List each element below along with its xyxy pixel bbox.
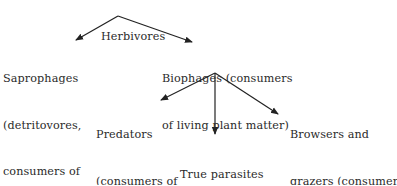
node-saprophages-line: consumers of — [3, 164, 82, 180]
node-browsers-grazers-line: grazers (consumers — [290, 174, 397, 186]
node-saprophages: Saprophages (detritovores, consumers of … — [3, 40, 82, 185]
node-herbivores: Herbivores — [101, 0, 165, 60]
node-predators-line: Predators — [96, 127, 181, 143]
node-saprophages-line: Saprophages — [3, 71, 82, 87]
node-true-parasites: True parasites (including pathogenic mic… — [180, 136, 305, 185]
node-predators: Predators (consumers of whole plants or … — [96, 96, 181, 185]
node-biophages-line: Biophages (consumers — [162, 71, 293, 87]
node-browsers-grazers-line: Browsers and — [290, 127, 397, 143]
node-biophages: Biophages (consumers of living plant mat… — [162, 40, 293, 149]
node-herbivores-line: Herbivores — [101, 29, 165, 45]
node-browsers-grazers: Browsers and grazers (consumers of part … — [290, 96, 397, 185]
node-saprophages-line: (detritovores, — [3, 118, 82, 134]
node-predators-line: (consumers of — [96, 174, 181, 186]
node-true-parasites-line: True parasites — [180, 167, 305, 183]
node-biophages-line: of living plant matter) — [162, 118, 293, 134]
